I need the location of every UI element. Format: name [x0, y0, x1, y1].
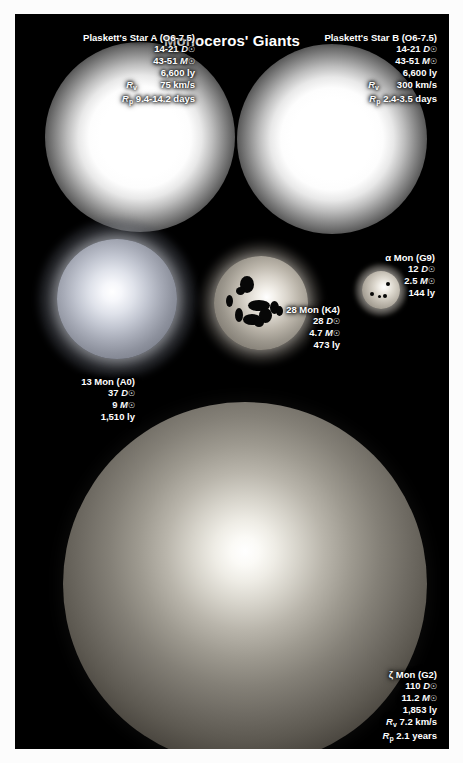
star-distance: 473 ly — [230, 339, 340, 350]
star-name: α Mon (G9) — [325, 252, 435, 263]
star-rotation-period: Rp 9.4-14.2 days — [25, 93, 195, 107]
star-distance: 6,600 ly — [25, 67, 195, 78]
star-name: 13 Mon (A0) — [25, 376, 135, 387]
starspot — [236, 287, 245, 295]
star-mass: 2.5 M☉ — [325, 275, 435, 287]
star-rotational-velocity: Rv 7.2 km/s — [317, 716, 437, 730]
star-name: Plaskett's Star B (O6-7.5) — [267, 32, 437, 43]
star-diameter: 14-21 D☉ — [25, 43, 195, 55]
star-diameter: 28 D☉ — [230, 315, 340, 327]
label-plaskett-b: Plaskett's Star B (O6-7.5) 14-21 D☉ 43-5… — [267, 32, 437, 107]
star-distance: 1,853 ly — [317, 704, 437, 715]
star-diameter: 12 D☉ — [325, 263, 435, 275]
star-size-comparison-figure: Monoceros' Giants Plaskett's Star A (O6-… — [0, 0, 463, 763]
star-diameter: 37 D☉ — [25, 387, 135, 399]
star-diameter: 110 D☉ — [317, 680, 437, 692]
star-13mon — [57, 239, 177, 359]
label-plaskett-a: Plaskett's Star A (O6-7.5) 14-21 D☉ 43-5… — [25, 32, 195, 107]
diagram-panel: Monoceros' Giants Plaskett's Star A (O6-… — [15, 14, 449, 749]
star-name: 28 Mon (K4) — [230, 304, 340, 315]
star-name: ζ Mon (G2) — [317, 669, 437, 680]
star-rotational-velocity: Rv75 km/s — [25, 79, 195, 93]
star-name: Plaskett's Star A (O6-7.5) — [25, 32, 195, 43]
star-distance: 1,510 ly — [25, 411, 135, 422]
star-mass: 43-51 M☉ — [25, 55, 195, 67]
star-distance: 144 ly — [325, 287, 435, 298]
star-distance: 6,600 ly — [267, 67, 437, 78]
star-rotational-velocity: Rv300 km/s — [267, 79, 437, 93]
star-mass: 43-51 M☉ — [267, 55, 437, 67]
star-mass: 11.2 M☉ — [317, 692, 437, 704]
label-zeta-mon: ζ Mon (G2) 110 D☉ 11.2 M☉ 1,853 ly Rv 7.… — [317, 669, 437, 744]
label-13-mon: 13 Mon (A0) 37 D☉ 9 M☉ 1,510 ly — [25, 376, 135, 423]
star-rotation-period: Rp 2.1 years — [317, 730, 437, 744]
star-mass: 4.7 M☉ — [230, 327, 340, 339]
label-28-mon: 28 Mon (K4) 28 D☉ 4.7 M☉ 473 ly — [230, 304, 340, 351]
star-diameter: 14-21 D☉ — [267, 43, 437, 55]
star-rotation-period: Rp 2.4-3.5 days — [267, 93, 437, 107]
star-mass: 9 M☉ — [25, 399, 135, 411]
label-alpha-mon: α Mon (G9) 12 D☉ 2.5 M☉ 144 ly — [325, 252, 435, 299]
